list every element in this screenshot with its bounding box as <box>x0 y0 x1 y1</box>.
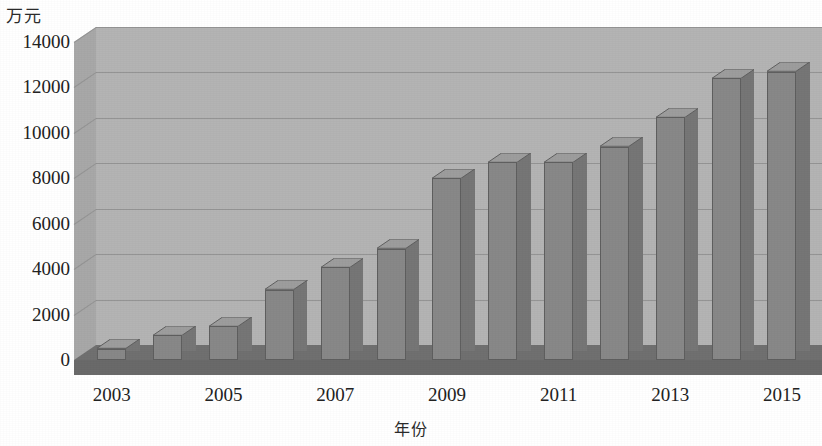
x-axis-tick-labels: 年份 2003200520072009201120132015 <box>0 0 822 446</box>
x-tick-2005: 2005 <box>205 384 243 406</box>
x-axis-title: 年份 <box>394 416 428 440</box>
x-tick-2013: 2013 <box>651 384 689 406</box>
x-tick-2009: 2009 <box>428 384 466 406</box>
x-tick-2003: 2003 <box>93 384 131 406</box>
x-tick-2007: 2007 <box>316 384 354 406</box>
x-tick-2011: 2011 <box>540 384 577 406</box>
bar-chart: 万元 02000400060008000100001200014000 年份 2… <box>0 0 822 446</box>
x-tick-2015: 2015 <box>763 384 801 406</box>
